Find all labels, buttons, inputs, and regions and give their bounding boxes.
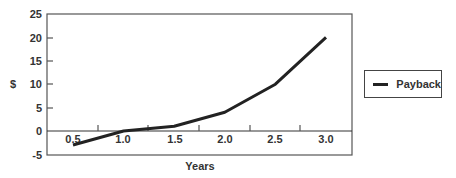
y-tick-label: 10: [30, 78, 42, 90]
x-tick-label: 2.0: [217, 133, 232, 145]
y-tick-label: 25: [30, 8, 42, 20]
plot-frame: [47, 14, 352, 155]
y-ticks: [47, 38, 53, 108]
x-axis-label: Years: [185, 160, 214, 172]
y-tick-label: 20: [30, 32, 42, 44]
legend: Payback: [364, 70, 442, 98]
x-tick-label: 2.5: [267, 133, 282, 145]
x-tick-label: 3.0: [318, 133, 333, 145]
y-tick-label: 15: [30, 55, 42, 67]
legend-label: Payback: [396, 78, 441, 90]
y-tick-labels: 25 20 15 10 5 0 -5: [30, 8, 42, 161]
y-tick-label: 5: [36, 102, 42, 114]
y-tick-label: -5: [32, 149, 42, 161]
x-tick-label: 1.5: [167, 133, 182, 145]
y-axis-label: $: [10, 78, 16, 90]
y-tick-label: 0: [36, 125, 42, 137]
legend-line-swatch-icon: [373, 83, 388, 86]
x-tick-label: 1.0: [115, 133, 130, 145]
